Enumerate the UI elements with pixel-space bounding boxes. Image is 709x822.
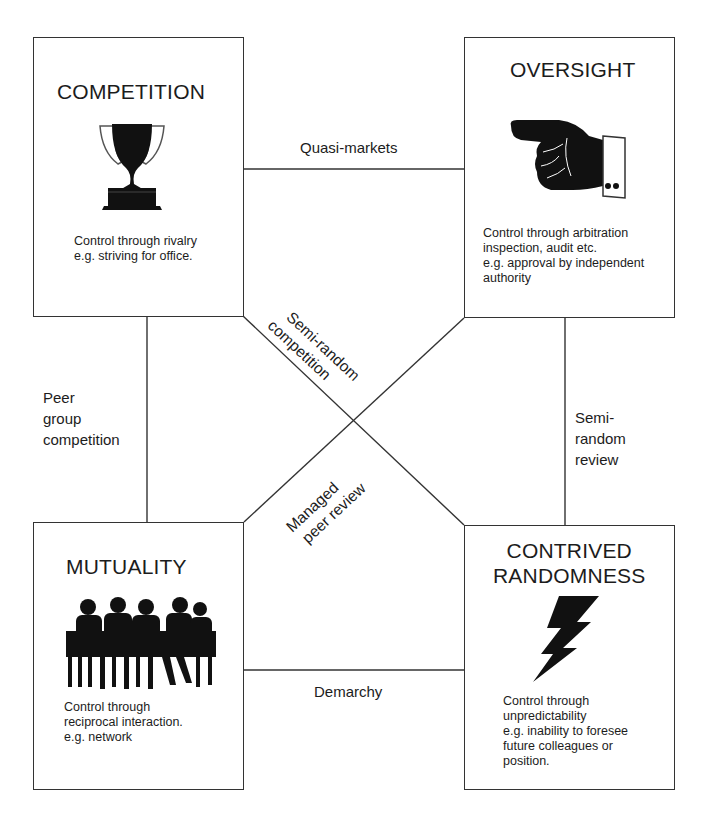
box-description-mutuality: Control through reciprocal interaction. …	[64, 700, 183, 745]
label-quasi-markets: Quasi-markets	[300, 137, 398, 158]
box-competition: COMPETITION Control through rivalry e.g.…	[33, 37, 244, 317]
box-contrived-randomness: CONTRIVED RANDOMNESS Control through unp…	[464, 525, 675, 790]
trophy-icon	[94, 122, 170, 214]
label-semi-random-review: Semi- random review	[575, 407, 626, 470]
pointing-hand-icon	[507, 116, 627, 202]
box-title-contrived-randomness: CONTRIVED RANDOMNESS	[493, 538, 646, 588]
group-meeting-silhouette-icon	[66, 597, 216, 691]
box-description-contrived-randomness: Control through unpredictability e.g. in…	[503, 694, 628, 769]
lightning-bolt-icon	[533, 596, 603, 682]
box-title-mutuality: MUTUALITY	[66, 555, 187, 579]
box-mutuality: MUTUALITY Control through reciprocal int…	[33, 522, 244, 790]
label-demarchy: Demarchy	[314, 681, 382, 702]
box-title-oversight: OVERSIGHT	[510, 58, 635, 82]
box-title-competition: COMPETITION	[57, 80, 205, 104]
box-description-oversight: Control through arbitration inspection, …	[483, 226, 644, 286]
box-oversight: OVERSIGHT Control through arbitration in…	[464, 37, 675, 318]
box-description-competition: Control through rivalry e.g. striving fo…	[74, 234, 197, 264]
label-peer-group-competition: Peer group competition	[43, 387, 120, 450]
